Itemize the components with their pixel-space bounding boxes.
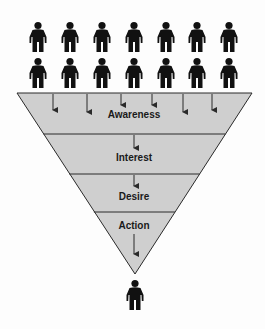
person-icon <box>221 22 238 52</box>
stage-label-desire: Desire <box>119 191 150 202</box>
person-icon <box>158 22 175 52</box>
person-icon <box>62 22 79 52</box>
person-icon <box>189 58 206 88</box>
person-icon <box>94 58 111 88</box>
person-icon <box>221 58 238 88</box>
stage-label-awareness: Awareness <box>108 109 161 120</box>
person-icon <box>126 22 143 52</box>
crowd-of-people <box>30 22 238 88</box>
converted-person-icon <box>127 280 144 310</box>
stage-label-interest: Interest <box>116 152 153 163</box>
stage-label-action: Action <box>118 220 149 231</box>
person-icon <box>94 22 111 52</box>
person-icon <box>30 22 47 52</box>
person-icon <box>30 58 47 88</box>
person-icon <box>126 58 143 88</box>
aida-funnel-diagram: Awareness Interest Desire Action <box>0 0 265 329</box>
person-icon <box>62 58 79 88</box>
person-icon <box>158 58 175 88</box>
person-icon <box>189 22 206 52</box>
